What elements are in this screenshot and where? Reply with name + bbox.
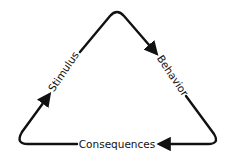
- arrow-consequences-to-stimulus: [20, 95, 77, 144]
- cycle-diagram: Stimulus Behavior Consequences: [0, 0, 234, 156]
- arrow-behavior-to-consequences: [160, 96, 216, 144]
- label-consequences: Consequences: [79, 138, 155, 150]
- label-behavior: Behavior: [155, 53, 191, 99]
- label-stimulus: Stimulus: [45, 49, 80, 94]
- arrow-stimulus-to-behavior: [80, 12, 156, 53]
